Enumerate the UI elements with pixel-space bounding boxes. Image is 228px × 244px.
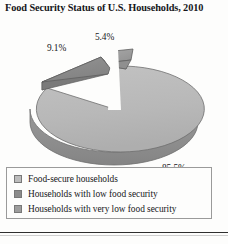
slice-low-food-security [42, 57, 110, 90]
chart-legend: Food-secure households Households with l… [6, 167, 212, 219]
legend-label-food-secure: Food-secure households [28, 174, 118, 184]
footer-divider [0, 232, 228, 233]
chart-figure: Food Security Status of U.S. Households,… [0, 0, 228, 244]
slice-low-food-security-top2 [42, 57, 110, 82]
chart-title: Food Security Status of U.S. Households,… [5, 2, 223, 13]
pie-chart: 9.1% 5.4% 85.5% [0, 16, 228, 166]
data-label-very-low-food-security: 5.4% [95, 32, 114, 42]
legend-label-low-food-security: Households with low food security [28, 189, 158, 199]
legend-item-very-low-food-security[interactable]: Households with very low food security [7, 201, 211, 216]
footer-divider-secondary [0, 235, 228, 236]
legend-label-very-low-food-security: Households with very low food security [28, 204, 176, 214]
data-label-low-food-security: 9.1% [47, 43, 66, 53]
legend-item-food-secure[interactable]: Food-secure households [7, 171, 211, 186]
legend-swatch-icon [14, 175, 22, 183]
legend-swatch-icon [14, 205, 22, 213]
legend-swatch-icon [14, 190, 22, 198]
legend-item-low-food-security[interactable]: Households with low food security [7, 186, 211, 201]
